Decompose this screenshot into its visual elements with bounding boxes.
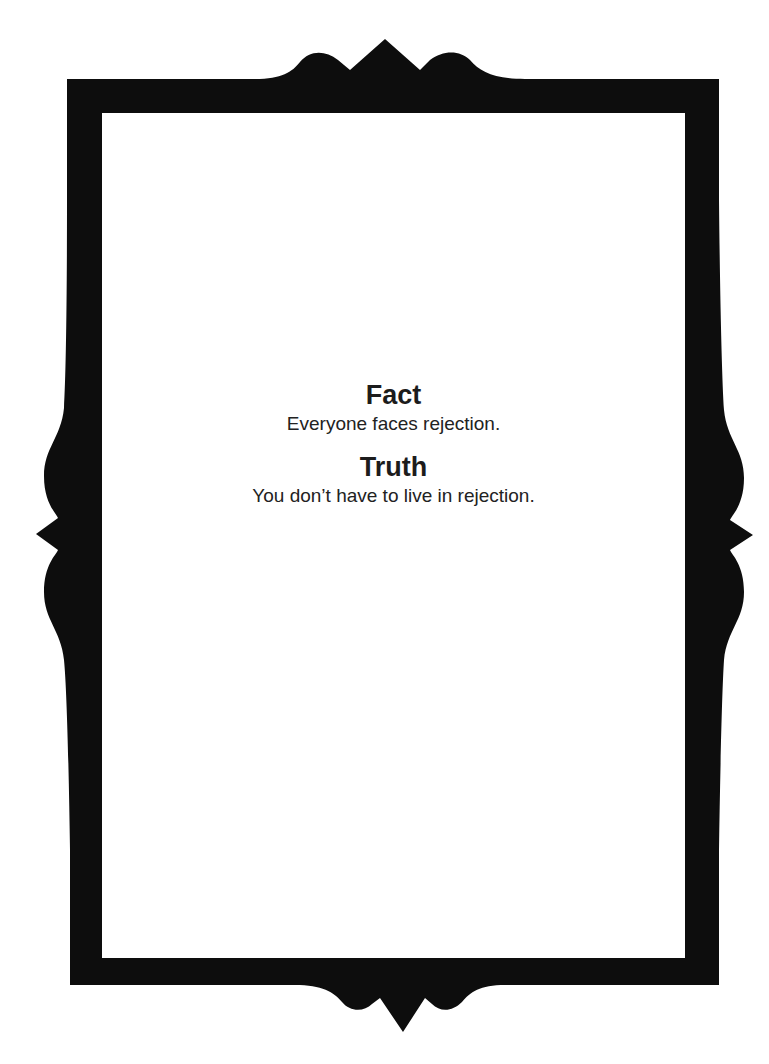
- truth-heading: Truth: [103, 450, 684, 484]
- truth-text: You don’t have to live in rejection.: [103, 484, 684, 508]
- fact-heading: Fact: [103, 378, 684, 412]
- fact-text: Everyone faces rejection.: [103, 412, 684, 436]
- truth-section: Truth You don’t have to live in rejectio…: [103, 450, 684, 508]
- fact-section: Fact Everyone faces rejection.: [103, 378, 684, 436]
- frame-border: [36, 39, 753, 1032]
- card-content: Fact Everyone faces rejection. Truth You…: [103, 370, 684, 522]
- ornate-frame: [0, 0, 769, 1064]
